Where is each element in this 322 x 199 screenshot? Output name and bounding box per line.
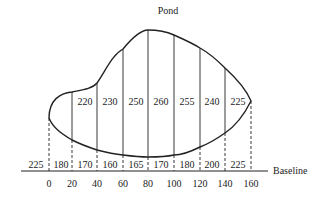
top-offset-labels: 220 230 250 260 255 240 225 (78, 96, 246, 107)
bottom-offset-label: 200 (205, 159, 220, 170)
station-label: 0 (47, 178, 52, 189)
bottom-offset-label: 225 (29, 159, 44, 170)
bottom-offset-label: 160 (103, 159, 118, 170)
bottom-offset-label: 180 (180, 159, 195, 170)
pond-outline (49, 30, 251, 157)
station-label: 140 (218, 178, 233, 189)
station-label: 40 (92, 178, 102, 189)
station-labels: 0 20 40 60 80 100 120 140 160 (47, 178, 259, 189)
bottom-offset-label: 180 (54, 159, 69, 170)
station-label: 100 (167, 178, 182, 189)
station-label: 20 (67, 178, 77, 189)
top-offset-label: 255 (180, 96, 195, 107)
top-offset-label: 240 (205, 96, 220, 107)
top-offset-label: 260 (154, 96, 169, 107)
top-offset-label: 230 (103, 96, 118, 107)
bottom-offset-label: 170 (78, 159, 93, 170)
bottom-offset-labels: 225 180 170 160 165 170 180 200 225 (29, 159, 246, 170)
station-label: 120 (193, 178, 208, 189)
bottom-offset-label: 170 (154, 159, 169, 170)
top-offset-label: 250 (129, 96, 144, 107)
bottom-offset-label: 165 (129, 159, 144, 170)
bottom-offset-label: 225 (231, 159, 246, 170)
station-label: 80 (143, 178, 153, 189)
station-label: 60 (118, 178, 128, 189)
top-offset-label: 225 (231, 96, 246, 107)
pond-survey-diagram: Pond Baseline 220 230 250 260 255 240 22… (0, 0, 322, 199)
baseline-label: Baseline (273, 165, 308, 176)
top-offset-label: 220 (78, 96, 93, 107)
diagram-title: Pond (158, 5, 179, 16)
station-label: 160 (244, 178, 259, 189)
